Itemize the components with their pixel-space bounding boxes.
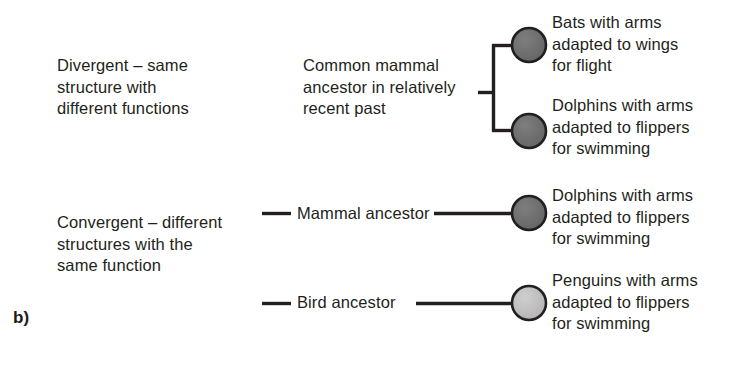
common-mammal-ancestor-label: Common mammal ancestor in relatively rec… [303, 55, 488, 120]
bird-ancestor-label: Bird ancestor [297, 292, 467, 314]
outcome-label-penguins: Penguins with arms adapted to flippers f… [552, 270, 752, 335]
divergent-description: Divergent – same structure with differen… [57, 55, 287, 120]
node-dolphins-divergent [512, 114, 546, 148]
node-dolphins-convergent [512, 196, 546, 230]
convergent-description: Convergent – different structures with t… [57, 212, 287, 277]
node-bats [512, 28, 546, 62]
mammal-ancestor-label: Mammal ancestor [297, 203, 467, 225]
panel-letter: b) [13, 308, 29, 328]
outcome-label-dolphins-divergent: Dolphins with arms adapted to flippers f… [552, 95, 752, 160]
evolution-diagram-figure: Divergent – same structure with differen… [0, 0, 752, 366]
node-penguins [512, 286, 546, 320]
outcome-label-bats: Bats with arms adapted to wings for flig… [552, 12, 752, 77]
outcome-label-dolphins-convergent: Dolphins with arms adapted to flippers f… [552, 185, 752, 250]
